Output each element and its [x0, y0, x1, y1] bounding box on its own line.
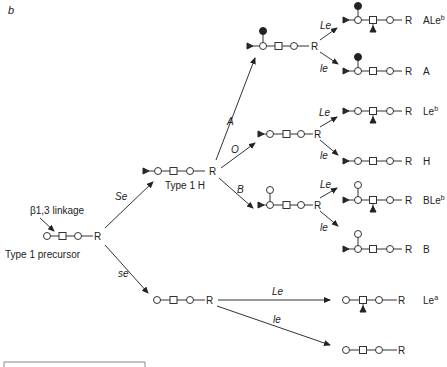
product-r: R — [398, 345, 405, 356]
product-bleb: R BLeb — [343, 182, 445, 213]
precursor-chain: R — [44, 231, 102, 242]
precursor-r: R — [94, 231, 101, 242]
o-intermediate-chain: R — [258, 129, 321, 140]
enzyme-le-lower: le — [320, 222, 328, 233]
product-a: R A — [343, 54, 430, 78]
product-label-bleb: BLeb — [423, 194, 445, 206]
product-r: R — [405, 244, 412, 255]
enzyme-le: Le — [319, 107, 331, 118]
product-label-aleb: ALeb — [423, 14, 445, 26]
enzyme-le-lower: le — [320, 63, 328, 74]
enzyme-b: B — [237, 184, 244, 195]
product-label-a: A — [423, 66, 430, 77]
enzyme-le: Le — [320, 179, 332, 190]
product-label-b: B — [423, 244, 430, 255]
product-r: R — [405, 195, 412, 206]
enzyme-le-lower: le — [320, 150, 328, 161]
a-intermediate-chain: R — [247, 28, 318, 53]
linkage-arrow-icon — [40, 218, 54, 231]
product-r: R — [405, 66, 412, 77]
enzyme-o: O — [231, 144, 239, 155]
product-label-lea: Lea — [423, 294, 438, 306]
enzyme-le-lower: le — [273, 314, 281, 325]
product-lea: R Lea — [343, 294, 439, 312]
abo-lewis-biosynthesis-diagram: b R Type 1 precursor β1,3 linkage Se se … — [0, 0, 447, 367]
product-b: R B — [343, 231, 430, 256]
legend-box-edge — [4, 362, 145, 367]
product-label-h: H — [423, 156, 430, 167]
galactose-node-icon — [44, 233, 51, 240]
b-intermediate-chain: R — [258, 187, 321, 212]
enzyme-se-lower: se — [118, 268, 129, 279]
product-r: R — [405, 156, 412, 167]
product-r: R — [405, 15, 412, 26]
panel-label: b — [8, 4, 14, 16]
se-intermediate-r: R — [206, 295, 213, 306]
product-leb: R Leb — [343, 105, 438, 123]
se-le-lower-arrow-icon — [217, 306, 330, 345]
product-r: R — [398, 295, 405, 306]
product-aleb: R ALeb — [343, 3, 445, 33]
product-unmodified: R — [343, 345, 406, 356]
product-label-leb: Leb — [423, 105, 438, 117]
enzyme-a: A — [226, 116, 234, 127]
type1h-label: Type 1 H — [165, 180, 205, 191]
enzyme-le: Le — [272, 286, 284, 297]
type1h-chain: R — [143, 166, 216, 177]
se-intermediate-chain: R — [154, 295, 214, 306]
a-intermediate-r: R — [311, 41, 318, 52]
precursor-label: Type 1 precursor — [5, 249, 81, 260]
galactose-node-icon — [267, 187, 274, 194]
galnac-node-icon — [260, 28, 267, 35]
b-intermediate-r: R — [314, 200, 321, 211]
o-intermediate-r: R — [314, 129, 321, 140]
type1h-r: R — [209, 166, 216, 177]
galactose-node-icon — [75, 233, 82, 240]
product-r: R — [405, 106, 412, 117]
o-le-arrow-icon — [320, 117, 337, 127]
enzyme-se-upper: Se — [115, 191, 128, 202]
linkage-label: β1,3 linkage — [30, 205, 85, 216]
se-upper-arrow-icon — [105, 182, 153, 228]
product-h: R H — [343, 156, 430, 167]
enzyme-le: Le — [320, 20, 332, 31]
glcnac-node-icon — [59, 233, 66, 240]
b-arrow-icon — [219, 178, 253, 208]
